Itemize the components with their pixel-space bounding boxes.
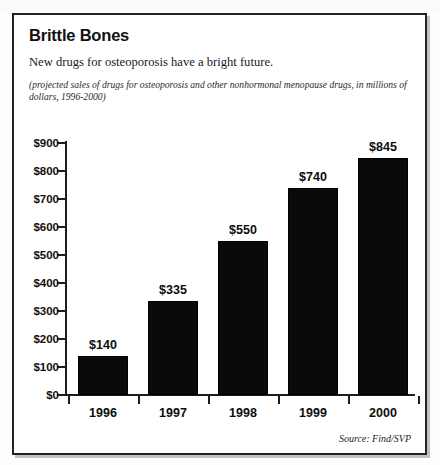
x-axis-category-2000: 2000 (348, 406, 418, 420)
x-axis-tick (348, 396, 350, 404)
x-axis-tick (208, 396, 210, 404)
y-axis-tick-label: $900 (33, 137, 59, 149)
x-axis-category-1998: 1998 (208, 406, 278, 420)
x-axis-tick (278, 396, 280, 404)
page-root: Brittle Bones New drugs for osteoporosis… (0, 0, 440, 465)
y-axis-tick-label: $600 (33, 221, 59, 233)
x-axis-tick (138, 396, 140, 404)
bar-1998 (218, 241, 268, 395)
x-axis-category-1999: 1999 (278, 406, 348, 420)
y-axis-tick-label: $100 (33, 361, 59, 373)
x-axis-tick (68, 396, 70, 404)
chart-figure-frame: Brittle Bones New drugs for osteoporosis… (12, 13, 427, 455)
bar-1997 (148, 301, 198, 395)
scan-artifact-strip (0, 0, 440, 12)
x-axis-tick (418, 396, 420, 404)
y-axis-tick-label: $300 (33, 305, 59, 317)
y-axis-tick-label: $700 (33, 193, 59, 205)
source-attribution: Source: Find/SVP (339, 433, 411, 444)
y-axis-tick-label: $500 (33, 249, 59, 261)
bar-1996 (78, 356, 128, 395)
y-axis-tick-label: $800 (33, 165, 59, 177)
bar-value-label-1998: $550 (200, 223, 286, 237)
bar-value-label-2000: $845 (340, 140, 426, 154)
y-axis-tick-label: $200 (33, 333, 59, 345)
y-axis-tick-label: $0 (46, 389, 59, 401)
bar-chart-plot: $0$100$200$300$400$500$600$700$800$900$1… (14, 15, 429, 457)
bar-2000 (358, 158, 408, 395)
bar-1999 (288, 188, 338, 395)
bar-value-label-1997: $335 (130, 283, 216, 297)
x-axis-category-1996: 1996 (68, 406, 138, 420)
y-axis-line (65, 141, 67, 396)
bar-value-label-1999: $740 (270, 170, 356, 184)
x-axis-category-1997: 1997 (138, 406, 208, 420)
y-axis-tick-label: $400 (33, 277, 59, 289)
bar-value-label-1996: $140 (60, 338, 146, 352)
